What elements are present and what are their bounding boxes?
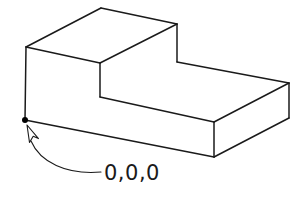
origin-coordinate-label: 0,0,0 bbox=[104, 161, 160, 185]
mouse-pointer-icon[interactable] bbox=[27, 125, 39, 143]
isometric-block-diagram: 0,0,0 bbox=[0, 0, 304, 198]
origin-point-dot[interactable] bbox=[22, 117, 28, 123]
curved-leader-line bbox=[31, 141, 101, 172]
solid-faces bbox=[25, 8, 289, 157]
diagram-canvas: 0,0,0 bbox=[0, 0, 304, 198]
edge-left-vertical bbox=[25, 47, 26, 120]
